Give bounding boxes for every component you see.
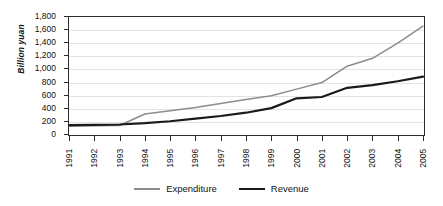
x-tick-label: 1992 (90, 141, 99, 175)
y-tick-label: 1,600 (35, 25, 56, 34)
y-tick-label: 1,200 (35, 51, 56, 60)
legend-label: Revenue (271, 184, 309, 194)
x-tick-label: 1998 (242, 141, 251, 175)
line-chart: Billion yuan 02004006008001,0001,2001,40… (0, 0, 443, 206)
y-tick-label: 400 (42, 104, 56, 113)
legend-swatch-icon (239, 188, 265, 190)
series-line-expenditure (69, 26, 423, 126)
x-tick-label: 1993 (115, 141, 124, 175)
x-tick-label: 1995 (166, 141, 175, 175)
x-tick-label: 2001 (318, 141, 327, 175)
x-tick-label: 2003 (368, 141, 377, 175)
legend-swatch-icon (134, 188, 160, 190)
series-lines (69, 17, 424, 135)
x-tick-label: 1999 (267, 141, 276, 175)
y-tick-label: 600 (42, 91, 56, 100)
y-tick-label: 1,000 (35, 64, 56, 73)
x-tick-label: 1994 (141, 141, 150, 175)
x-tick-label: 2002 (343, 141, 352, 175)
legend-item-revenue[interactable]: Revenue (239, 184, 309, 194)
x-tick-label: 2005 (419, 141, 428, 175)
x-tick-label: 2004 (393, 141, 402, 175)
plot-area (68, 16, 425, 136)
x-axis-tick-labels: 1991199219931994199519961997199819992000… (68, 140, 425, 174)
y-tick-label: 1,400 (35, 38, 56, 47)
legend-item-expenditure[interactable]: Expenditure (134, 184, 217, 194)
legend-label: Expenditure (166, 184, 217, 194)
y-axis-tick-labels: 02004006008001,0001,2001,4001,6001,800 (0, 0, 64, 206)
x-tick-label: 1996 (191, 141, 200, 175)
x-tick-label: 1991 (65, 141, 74, 175)
series-line-revenue (69, 77, 423, 126)
y-tick-label: 0 (51, 130, 56, 139)
chart-legend: ExpenditureRevenue (0, 184, 443, 194)
x-tick-label: 1997 (216, 141, 225, 175)
y-tick-label: 200 (42, 117, 56, 126)
y-tick-label: 1,800 (35, 12, 56, 21)
x-tick-label: 2000 (292, 141, 301, 175)
y-tick-label: 800 (42, 78, 56, 87)
